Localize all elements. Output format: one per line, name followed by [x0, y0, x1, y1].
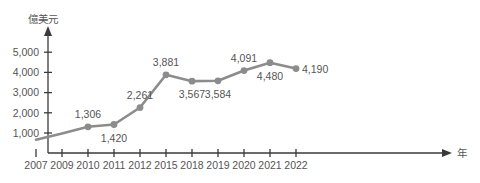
data-point-marker	[111, 121, 118, 128]
y-axis-arrow-icon	[44, 26, 52, 36]
x-tick-label: 2007	[24, 159, 48, 171]
y-tick-label: 4,000	[13, 66, 39, 78]
data-point-marker	[293, 65, 300, 72]
y-tick-group: 1,0002,0003,0004,0005,000	[13, 46, 52, 139]
x-tick-label: 2010	[76, 159, 100, 171]
x-tick-label: 2015	[154, 159, 178, 171]
data-point-value-label: 1,306	[75, 108, 101, 120]
x-tick-label: 2019	[206, 159, 230, 171]
x-tick-label: 2018	[180, 159, 204, 171]
x-tick-label: 2011	[103, 159, 126, 171]
x-axis	[48, 149, 452, 157]
x-tick-group: 2007200920102011201220152018201920202021…	[24, 149, 308, 171]
y-axis-title: 億美元	[28, 13, 59, 25]
y-tick-label: 3,000	[13, 86, 39, 98]
data-point-labels: 1,3061,4202,2613,8813,5673,5844,0914,480…	[75, 52, 329, 144]
line-chart-plot: 1,0002,0003,0004,0005,000 20072009201020…	[0, 0, 480, 183]
data-point-marker	[189, 78, 196, 85]
chart-container: 1,0002,0003,0004,0005,000 20072009201020…	[0, 0, 480, 183]
data-point-value-label: 4,480	[257, 70, 283, 82]
data-point-value-label: 1,420	[101, 132, 127, 144]
x-axis-title: 年	[457, 147, 467, 159]
x-tick-label: 2020	[232, 159, 256, 171]
data-point-marker	[137, 104, 144, 111]
x-tick-label: 2009	[50, 159, 74, 171]
data-point-marker	[163, 71, 170, 78]
data-point-value-label: 2,261	[127, 89, 153, 101]
x-tick-label: 2012	[128, 159, 152, 171]
y-tick-label: 1,000	[13, 127, 39, 139]
x-tick-label: 2021	[258, 159, 282, 171]
y-tick-label: 5,000	[13, 46, 39, 58]
data-point-marker	[215, 77, 222, 84]
data-point-marker	[267, 59, 274, 66]
x-tick-label: 2022	[284, 159, 308, 171]
x-axis-arrow-icon	[442, 149, 452, 157]
data-point-value-label: 3,567	[179, 88, 205, 100]
y-tick-label: 2,000	[13, 107, 39, 119]
data-point-value-label: 4,190	[302, 63, 328, 75]
data-point-value-label: 3,881	[153, 56, 179, 68]
y-axis	[44, 26, 52, 153]
data-point-marker	[85, 123, 92, 130]
data-point-marker	[241, 67, 248, 74]
data-point-value-label: 3,584	[205, 88, 231, 100]
data-point-value-label: 4,091	[231, 52, 257, 64]
